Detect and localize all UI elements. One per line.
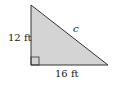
right-triangle — [31, 5, 108, 65]
triangle-diagram: 12 ft 16 ft c — [0, 0, 116, 108]
vertical-leg-label: 12 ft — [8, 32, 32, 43]
hypotenuse-label: c — [73, 23, 79, 34]
horizontal-leg-label: 16 ft — [55, 68, 79, 79]
